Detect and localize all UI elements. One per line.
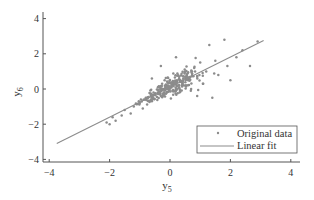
data-point [156,99,159,102]
legend-label-original-data: Original data [237,128,292,139]
data-point [223,38,226,41]
data-point [214,60,217,63]
y-tick-label: 0 [34,84,39,95]
data-point [166,76,169,79]
data-point [168,82,171,85]
scatter-chart: −4−2024 −4−2024 y5 y6 Original data Line… [0,0,314,200]
data-point [146,103,149,106]
data-point [194,57,197,60]
data-point [161,96,164,99]
data-point [181,83,184,86]
data-point [198,79,201,82]
data-point [256,40,259,43]
data-point [213,72,216,75]
data-point [172,80,175,83]
data-point [157,97,160,100]
data-point [226,65,229,68]
data-point [190,71,193,74]
data-point [196,77,199,80]
data-point [235,56,238,59]
data-point [120,114,123,117]
data-point [189,79,192,82]
data-point [178,87,181,90]
data-point [217,74,220,77]
data-point [167,90,170,93]
y-tick-label: 4 [34,13,39,24]
data-point [159,88,162,91]
legend: Original data Linear fit [197,126,297,153]
data-point [197,89,200,92]
x-tick-label: 2 [228,167,233,178]
x-tick-label: −2 [104,167,115,178]
data-point [205,70,208,73]
data-point [161,85,164,88]
data-point [161,88,164,91]
data-point [174,92,177,95]
data-point [168,80,171,83]
x-tick-label: −4 [44,167,55,178]
data-point [164,95,167,98]
data-point [172,93,175,96]
data-point [163,79,166,82]
data-point [201,72,204,75]
data-point [183,71,186,74]
data-point [184,87,187,90]
scatter-points [105,38,259,125]
x-tick-label: 4 [288,167,293,178]
data-point [149,89,152,92]
data-point [180,74,183,77]
data-point [161,83,164,86]
data-point [185,65,188,68]
y-tick-label: −2 [28,119,39,130]
data-point [187,71,190,74]
data-point [211,97,214,100]
data-point [172,72,175,75]
data-point [208,44,211,47]
data-point [162,93,165,96]
y-tick-label: 2 [34,48,39,59]
legend-marker-dot-icon [217,132,219,134]
data-point [142,107,145,110]
y-axis-label: y6 [10,87,25,97]
data-point [160,65,163,68]
data-point [174,74,177,77]
data-point [193,65,196,68]
data-point [190,82,193,85]
data-point [170,97,173,100]
x-axis-label: y5 [162,179,172,194]
data-point [249,65,252,68]
data-point [174,76,177,79]
data-point [158,85,161,88]
data-point [202,82,205,85]
data-point [108,123,111,126]
data-point [196,95,199,98]
data-point [196,75,199,78]
legend-label-linear-fit: Linear fit [237,140,276,151]
data-point [129,112,132,115]
data-point [190,90,193,93]
data-point [202,75,205,78]
y-tick-label: −4 [28,154,39,165]
data-point [175,56,178,59]
data-point [105,121,108,124]
data-point [164,84,167,87]
x-tick-label: 0 [168,167,173,178]
data-point [149,100,152,103]
data-point [153,98,156,101]
data-point [138,103,141,106]
data-point [180,89,183,92]
data-point [175,81,178,84]
data-point [198,74,201,77]
data-point [151,77,154,80]
data-point [199,61,202,64]
data-point [194,70,197,73]
data-point [229,79,232,82]
data-point [184,81,187,84]
data-point [177,74,180,77]
data-point [186,73,189,76]
data-point [114,119,117,122]
